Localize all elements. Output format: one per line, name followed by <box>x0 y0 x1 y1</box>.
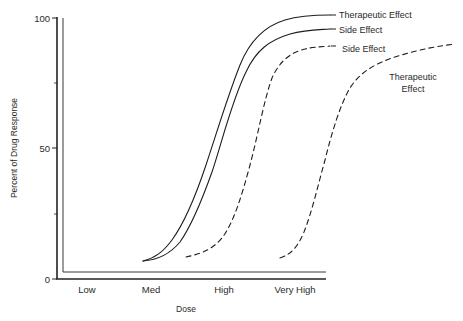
label-therapeutic-solid: Therapeutic Effect <box>339 10 412 20</box>
label-side-dashed: Side Effect <box>342 44 386 54</box>
x-label-med: Med <box>142 284 160 295</box>
x-label-very-high: Very High <box>274 284 315 295</box>
axes <box>52 17 326 279</box>
y-tick-label-0: 0 <box>45 274 50 285</box>
curve-side-solid <box>143 29 330 261</box>
y-tick-label-50: 50 <box>39 143 50 154</box>
curve-therapeutic-solid <box>143 15 330 261</box>
x-label-low: Low <box>78 284 96 295</box>
y-axis-title: Percent of Drug Response <box>9 98 19 198</box>
y-tick-label-100: 100 <box>34 13 50 24</box>
dose-response-chart: 100 50 0 Low Med High Very High Dose Per… <box>0 0 463 321</box>
curve-side-dashed <box>186 46 330 257</box>
label-therapeutic-dashed-line2: Effect <box>402 84 425 94</box>
x-label-high: High <box>214 284 234 295</box>
label-side-solid: Side Effect <box>339 25 383 35</box>
x-axis-title: Dose <box>176 304 196 314</box>
label-therapeutic-dashed-line1: Therapeutic <box>389 72 437 82</box>
